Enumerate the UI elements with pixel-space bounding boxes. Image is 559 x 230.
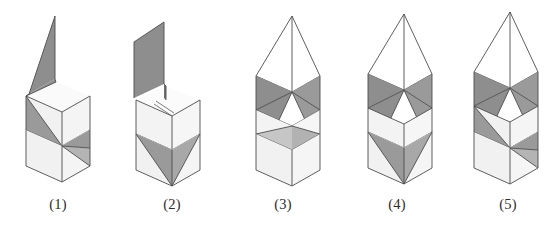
figure-3 — [230, 0, 360, 196]
caption-label: (1) — [49, 196, 67, 212]
caption-figure-1: (1) — [28, 196, 88, 213]
caption-label: (4) — [388, 196, 406, 212]
caption-label: (2) — [163, 196, 181, 212]
figure-1-upper-band — [26, 16, 90, 146]
fin-face — [134, 22, 164, 98]
figure-1 — [0, 0, 130, 196]
caption-figure-3: (3) — [253, 196, 313, 213]
figure-2 — [114, 0, 244, 196]
caption-label: (3) — [274, 196, 292, 212]
caption-figure-2: (2) — [142, 196, 202, 213]
caption-figure-5: (5) — [478, 196, 538, 213]
figure-5 — [452, 0, 559, 196]
figure-panel: (1) (2) (3) (4) (5) — [0, 0, 559, 230]
caption-label: (5) — [499, 196, 517, 212]
caption-figure-4: (4) — [367, 196, 427, 213]
figure-2-upper-band — [134, 22, 200, 150]
